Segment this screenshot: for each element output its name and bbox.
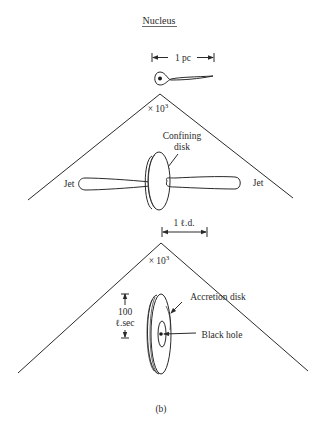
label-jet-left: Jet: [64, 179, 75, 189]
jet-right: [166, 177, 240, 189]
confining-disk: [145, 152, 170, 210]
figure-caption: (b): [155, 404, 166, 415]
label-height-unit: ℓ.sec: [115, 318, 134, 328]
label-jet-right: Jet: [253, 178, 264, 188]
nucleus-shape: [155, 72, 213, 85]
zoom-label-lower: × 103: [149, 254, 170, 266]
jet-left: [79, 178, 150, 190]
label-accretion-disk: Accretion disk: [190, 292, 246, 302]
pointer-accretion-disk: [171, 302, 182, 313]
label-disk: disk: [174, 142, 190, 152]
scale-bar-100-lsec: 100 ℓ.sec: [115, 294, 134, 338]
label-height-value: 100: [118, 307, 133, 317]
nucleus-core: [158, 77, 162, 81]
diagram-canvas: Nucleus 1 pc × 103 Confining disk Jet Je…: [0, 0, 328, 428]
black-hole-dot: [159, 332, 163, 336]
zoom-label-upper: × 103: [148, 102, 169, 114]
title-text: Nucleus: [143, 15, 176, 26]
figure-title: Nucleus: [142, 15, 177, 27]
scale-bar-1pc: 1 pc: [152, 53, 214, 63]
label-black-hole: Black hole: [202, 330, 243, 340]
scale-bar-1ld: 1 ℓ.d.: [162, 218, 207, 237]
label-confining: Confining: [163, 131, 202, 141]
scale-label-1pc: 1 pc: [175, 53, 191, 63]
scale-label-1ld: 1 ℓ.d.: [173, 218, 194, 228]
